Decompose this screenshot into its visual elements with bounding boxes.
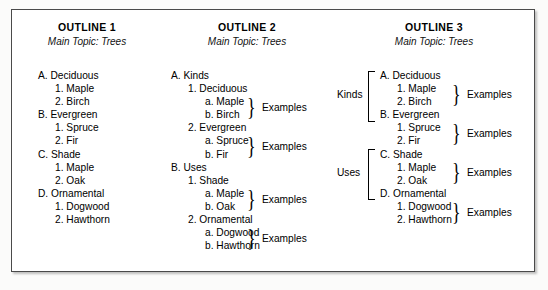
examples-brace-icon: } (247, 133, 256, 158)
line-marker: B. (380, 108, 390, 121)
examples-label: Examples (262, 233, 307, 244)
examples-label: Examples (467, 128, 512, 139)
outline-2-subtitle: Main Topic: Trees (162, 36, 332, 47)
outline-line: C. Shade (332, 148, 536, 161)
outline-3-title: OUTLINE 3 (332, 21, 536, 33)
line-text: Deciduous (48, 70, 99, 81)
line-text: Dogwood (64, 201, 110, 212)
outline-line: A. Kinds (162, 69, 332, 82)
examples-brace-icon: } (452, 199, 461, 224)
line-marker: A. (38, 69, 48, 82)
line-text: Dogwood (406, 201, 452, 212)
examples-brace-icon: } (247, 186, 256, 211)
line-text: Kinds (181, 70, 209, 81)
outline-3-lines: A. Deciduous1. Maple2. BirchB. Evergreen… (332, 69, 536, 226)
line-text: Evergreen (48, 109, 98, 120)
line-marker: B. (38, 108, 48, 121)
line-text: Shade (48, 149, 80, 160)
outline-line: 2. Birch (12, 95, 162, 108)
examples-brace-icon: } (247, 94, 256, 119)
line-text: Maple (214, 188, 245, 199)
line-marker: A. (380, 69, 390, 82)
line-marker: 1. (55, 82, 64, 95)
line-text: Uses (181, 162, 207, 173)
outline-line: B. Evergreen (332, 108, 536, 121)
line-marker: b. (205, 148, 214, 161)
line-marker: 1. (397, 121, 406, 134)
line-text: Ornamental (197, 214, 253, 225)
line-marker: 1. (397, 200, 406, 213)
line-text: Shade (197, 175, 229, 186)
examples-label: Examples (467, 167, 512, 178)
line-text: Spruce (64, 122, 99, 133)
line-text: Maple (406, 162, 437, 173)
outline-line: 1. Maple (12, 161, 162, 174)
examples-label: Examples (262, 194, 307, 205)
line-marker: 2. (188, 121, 197, 134)
line-marker: a. (205, 95, 214, 108)
outline-line: C. Shade (12, 148, 162, 161)
line-marker: 2. (55, 134, 64, 147)
examples-label: Examples (467, 207, 512, 218)
line-marker: D. (380, 187, 390, 200)
examples-label: Examples (467, 89, 512, 100)
line-marker: a. (205, 187, 214, 200)
line-text: Hawthorn (64, 214, 110, 225)
outline-line: 2. Oak (12, 174, 162, 187)
line-marker: 1. (55, 121, 64, 134)
examples-brace-icon: } (247, 225, 256, 250)
outline-line: D. Ornamental (12, 187, 162, 200)
line-marker: b. (205, 108, 214, 121)
outline-1-lines: A. Deciduous1. Maple2. BirchB. Evergreen… (12, 69, 162, 226)
outline-2-title: OUTLINE 2 (162, 21, 332, 33)
line-marker: B. (171, 161, 181, 174)
line-text: Maple (64, 162, 95, 173)
line-text: Deciduous (197, 83, 248, 94)
line-text: Oak (214, 201, 236, 212)
outline-line: 2. Hawthorn (12, 213, 162, 226)
line-text: Maple (64, 83, 95, 94)
line-text: Fir (214, 149, 229, 160)
line-text: Oak (64, 175, 86, 186)
line-marker: C. (380, 148, 390, 161)
line-marker: 1. (188, 174, 197, 187)
line-text: Oak (406, 175, 428, 186)
line-text: Maple (406, 83, 437, 94)
line-text: Evergreen (390, 109, 440, 120)
line-marker: 2. (55, 174, 64, 187)
examples-brace-icon: } (452, 120, 461, 145)
line-text: Evergreen (197, 122, 247, 133)
line-marker: 2. (397, 134, 406, 147)
line-marker: 2. (55, 95, 64, 108)
line-marker: 1. (397, 82, 406, 95)
outline-comparison-figure: OUTLINE 1 Main Topic: Trees A. Deciduous… (0, 0, 548, 290)
outline-line: 1. Spruce (12, 121, 162, 134)
line-marker: 2. (397, 213, 406, 226)
line-text: Spruce (214, 135, 249, 146)
group-bracket-label: Uses (337, 167, 360, 178)
line-marker: a. (205, 134, 214, 147)
line-marker: b. (205, 200, 214, 213)
line-text: Shade (390, 149, 422, 160)
line-text: Birch (64, 96, 90, 107)
line-text: Ornamental (390, 188, 446, 199)
line-marker: 2. (188, 213, 197, 226)
group-bracket-icon (368, 71, 375, 122)
line-marker: C. (38, 148, 48, 161)
group-bracket-label: Kinds (337, 89, 362, 100)
outline-line: A. Deciduous (332, 69, 536, 82)
line-marker: 1. (188, 82, 197, 95)
line-marker: 2. (397, 174, 406, 187)
line-text: Maple (214, 96, 245, 107)
group-bracket-icon (368, 149, 375, 200)
outline-3-subtitle: Main Topic: Trees (332, 36, 536, 47)
line-marker: A. (171, 69, 181, 82)
line-marker: 1. (55, 200, 64, 213)
outline-line: 1. Maple (12, 82, 162, 95)
line-text: Fir (406, 135, 421, 146)
line-text: Birch (406, 96, 432, 107)
outline-1-column: OUTLINE 1 Main Topic: Trees A. Deciduous… (12, 10, 162, 271)
outline-line: B. Evergreen (12, 108, 162, 121)
line-text: Fir (64, 135, 79, 146)
line-marker: 2. (397, 95, 406, 108)
